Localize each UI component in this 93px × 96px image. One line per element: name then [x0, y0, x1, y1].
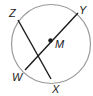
- circle-diagram: Z Y M W X: [0, 0, 93, 96]
- label-z: Z: [8, 7, 17, 19]
- circle-m: [12, 5, 91, 84]
- label-w: W: [12, 71, 24, 83]
- center-point-m: [48, 38, 52, 42]
- label-m: M: [55, 38, 65, 50]
- label-x: X: [51, 83, 60, 95]
- chord-zx: [18, 20, 51, 79]
- label-y: Y: [79, 4, 87, 16]
